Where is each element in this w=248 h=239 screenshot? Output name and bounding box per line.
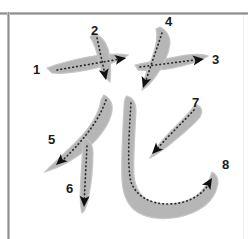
stroke-body-1 bbox=[47, 54, 128, 73]
stroke-order-diagram: 12345678 bbox=[0, 0, 248, 239]
stroke-number-1: 1 bbox=[33, 63, 40, 76]
stroke-number-6: 6 bbox=[66, 182, 73, 195]
stroke-body-8 bbox=[122, 96, 218, 219]
stroke-number-8: 8 bbox=[222, 158, 229, 171]
stroke-number-4: 4 bbox=[165, 15, 172, 28]
character-strokes-canvas bbox=[0, 0, 248, 239]
stroke-number-2: 2 bbox=[91, 24, 98, 37]
stroke-number-5: 5 bbox=[48, 133, 55, 146]
stroke-number-3: 3 bbox=[212, 53, 219, 66]
stroke-number-7: 7 bbox=[192, 96, 199, 109]
